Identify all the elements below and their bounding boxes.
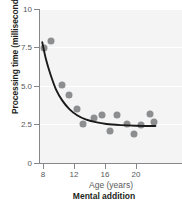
data-point — [40, 44, 47, 51]
x-axis-label: Age (years) — [40, 180, 182, 190]
gridline-7.5 — [40, 47, 182, 48]
data-point — [74, 106, 81, 113]
data-point — [79, 120, 86, 127]
data-point — [150, 119, 157, 126]
gridline-2.5 — [40, 124, 182, 125]
y-axis-line — [39, 9, 40, 164]
y-tick-label-0: 0 — [4, 159, 32, 168]
y-tick-7.5 — [34, 47, 39, 48]
x-tick-label-12: 12 — [64, 170, 84, 179]
data-point — [59, 82, 66, 89]
data-point — [138, 122, 145, 129]
x-tick-label-16: 16 — [95, 170, 115, 179]
x-tick-20 — [136, 164, 137, 169]
gridline-10 — [40, 9, 182, 10]
data-point — [66, 92, 73, 99]
x-tick-label-20: 20 — [126, 170, 146, 179]
data-point — [146, 111, 153, 118]
data-point — [98, 112, 105, 119]
data-point — [124, 120, 131, 127]
x-tick-12 — [74, 164, 75, 169]
data-point — [106, 127, 113, 134]
y-axis-label: Processing time (milliseconds) — [10, 0, 20, 128]
figure-caption: Mental addition — [26, 191, 182, 201]
y-tick-5.0 — [34, 86, 39, 87]
y-tick-2.5 — [34, 124, 39, 125]
y-tick-0 — [34, 163, 39, 164]
x-tick-label-8: 8 — [33, 170, 53, 179]
data-point — [91, 115, 98, 122]
data-point — [114, 112, 121, 119]
data-point — [130, 130, 137, 137]
y-tick-10 — [34, 9, 39, 10]
x-tick-8 — [43, 164, 44, 169]
x-tick-16 — [105, 164, 106, 169]
x-axis-line — [39, 163, 182, 164]
figure-mental-addition: 10 7.5 5.0 2.5 0 8 12 16 20 Processing t… — [0, 0, 182, 204]
data-point — [47, 38, 54, 45]
